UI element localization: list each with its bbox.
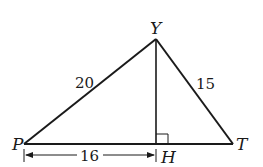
vertex-label-p: P	[11, 134, 24, 154]
length-label-ph: 16	[80, 147, 99, 165]
length-label-py: 20	[75, 74, 94, 92]
side-yt	[156, 39, 233, 144]
vertex-label-h: H	[160, 147, 177, 167]
triangle-diagram: Y P T H 20 15 16	[0, 0, 263, 167]
right-angle-marker	[156, 134, 168, 144]
vertex-label-t: T	[236, 134, 249, 154]
length-label-yt: 15	[196, 75, 215, 93]
vertex-label-y: Y	[150, 18, 163, 38]
